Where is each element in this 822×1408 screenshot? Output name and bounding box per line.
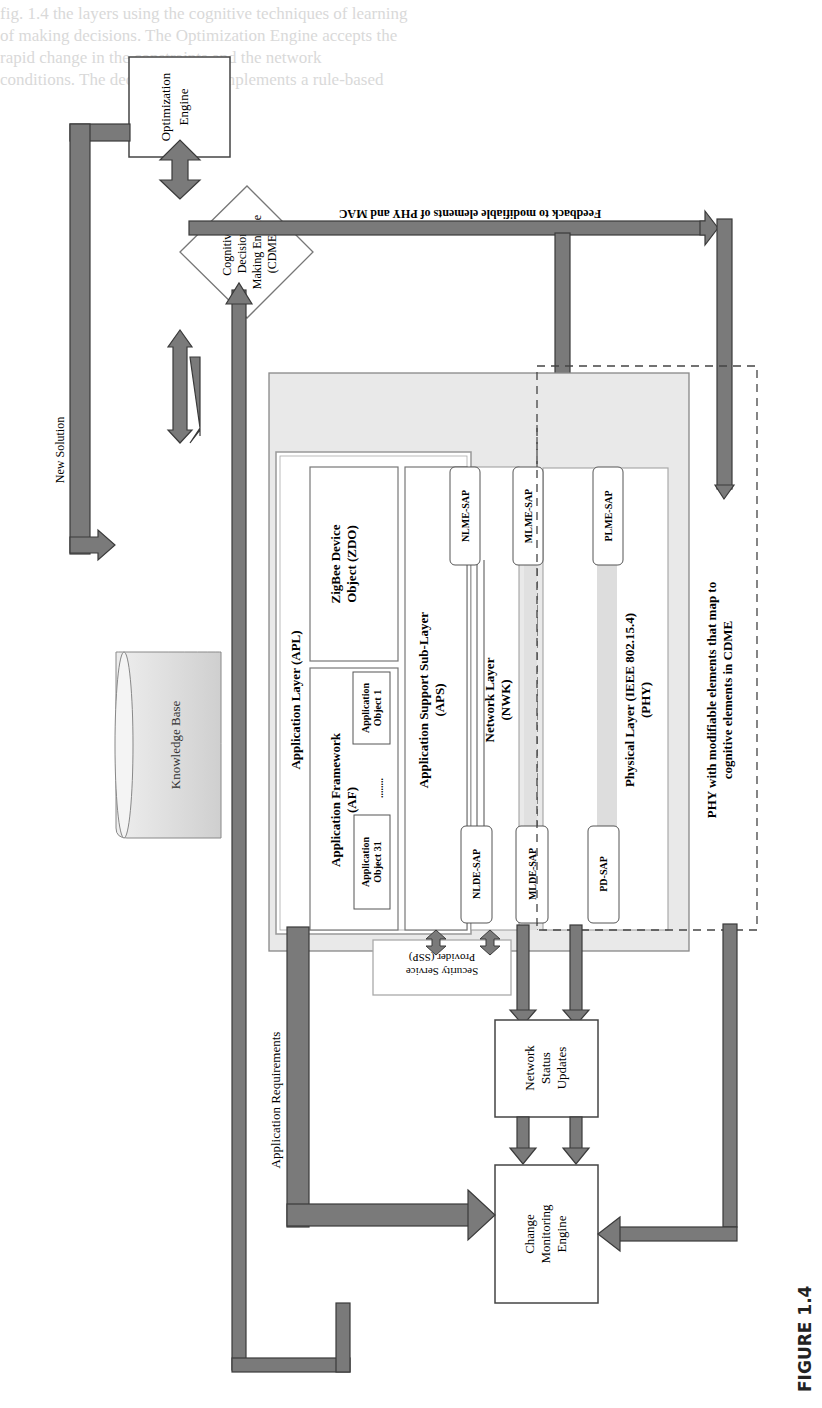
- aps-label-2: (APS): [432, 683, 447, 716]
- new-solution-arrow: [70, 124, 130, 560]
- new-solution-label: New Solution: [53, 417, 67, 483]
- optimization-engine-label-1: Optimization: [158, 72, 173, 141]
- svg-text:NLME-SAP: NLME-SAP: [460, 490, 471, 542]
- figure-caption: FIGURE 1.4: [795, 1286, 815, 1392]
- phy-to-cme-arrow: [598, 924, 737, 1251]
- phy-modifiable-label-2: cognitive elements in CDME: [720, 621, 735, 780]
- feedback-label: Feedback to modifiable elements of PHY a…: [339, 207, 602, 221]
- sap-mlde: MLDE-SAP: [516, 826, 548, 923]
- cme-label-3: Engine: [554, 1215, 569, 1252]
- zdo-label-2: Object (ZDO): [344, 525, 359, 603]
- sap-plme: PLME-SAP: [593, 467, 623, 565]
- change-monitoring-engine-box: Change Monitoring Engine: [495, 1165, 598, 1303]
- sap-pd: PD-SAP: [588, 826, 619, 923]
- application-requirements-label: Application Requirements: [268, 1032, 283, 1169]
- svg-text:NLDE-SAP: NLDE-SAP: [471, 849, 482, 899]
- ssp-label-1: Security Service: [406, 966, 479, 978]
- svg-text:MLME-SAP: MLME-SAP: [523, 489, 534, 543]
- nwk-label-2: (NWK): [498, 679, 513, 720]
- app-object-31-label-1: Application: [360, 837, 371, 887]
- app-object-31-label-2: Object 31: [372, 841, 383, 882]
- app-object-1-label-1: Application: [360, 683, 371, 733]
- ssp-label-2: Provider (SSP): [409, 951, 476, 964]
- cdme-label-4: (CDME): [265, 231, 279, 274]
- nsu-to-cme-arrows: [510, 1117, 589, 1164]
- optimization-engine-label-2: Engine: [176, 88, 191, 125]
- sap-nlme: NLME-SAP: [450, 467, 480, 565]
- af-label-1: Application Framework: [328, 732, 343, 867]
- nsu-label-1: Network: [522, 1045, 537, 1091]
- af-ellipsis: ........: [374, 778, 385, 799]
- nwk-label-1: Network Layer: [482, 657, 497, 742]
- sap-mlme: MLME-SAP: [513, 467, 543, 565]
- svg-text:PLME-SAP: PLME-SAP: [603, 490, 614, 541]
- zigbee-cognitive-diagram: Optimization Engine New Solution Cogniti…: [0, 0, 822, 1408]
- app-object-1-label-2: Object 1: [372, 690, 383, 726]
- sap-nlde: NLDE-SAP: [461, 826, 492, 923]
- knowledge-base-label: Knowledge Base: [168, 701, 183, 790]
- phy-modifiable-label-1: PHY with modifiable elements that map to: [704, 582, 719, 818]
- aps-label-1: Application Support Sub-Layer: [416, 612, 431, 788]
- network-status-updates-box: Network Status Updates: [495, 1020, 598, 1117]
- cdme-label-2: Decision: [235, 231, 249, 274]
- cme-label-2: Monitoring: [538, 1204, 553, 1264]
- nsu-label-3: Updates: [554, 1047, 569, 1090]
- apl-label: Application Layer (APL): [288, 630, 303, 769]
- phy-label-2: (PHY): [638, 682, 653, 718]
- zigbee-stack: IEEE 802.15.4/ZigBee Stack Application L…: [269, 373, 689, 951]
- af-label-2: (AF): [344, 787, 359, 813]
- nsu-label-2: Status: [538, 1052, 553, 1084]
- svg-text:PD-SAP: PD-SAP: [598, 856, 609, 892]
- knowledge-base-cylinder: Knowledge Base: [115, 652, 221, 838]
- cme-label-1: Change: [522, 1214, 537, 1254]
- zdo-label-1: ZigBee Device: [328, 524, 343, 603]
- phy-label-1: Physical Layer (IEEE 802.15.4): [622, 613, 637, 787]
- cdme-kb-double-arrow: [168, 330, 200, 443]
